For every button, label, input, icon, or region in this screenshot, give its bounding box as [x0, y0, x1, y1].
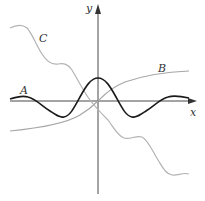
- graph-figure: y x A B C: [0, 0, 205, 201]
- curve-c-label: C: [39, 32, 48, 45]
- x-axis-label: x: [190, 106, 197, 119]
- y-axis-arrow-icon: [95, 4, 101, 14]
- curve-a-label: A: [19, 84, 28, 97]
- curve-b-label: B: [157, 62, 166, 75]
- y-axis-label: y: [85, 2, 93, 15]
- x-axis-arrow-icon: [188, 98, 197, 104]
